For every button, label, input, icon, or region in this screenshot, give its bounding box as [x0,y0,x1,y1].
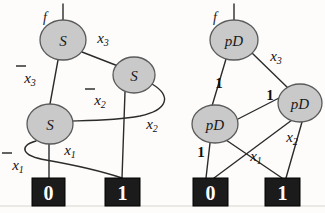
left-edge-label-x1-sub: 1 [71,149,76,160]
left-edge-label-x3: x3 [96,30,109,48]
right-node-pd-top[interactable]: pD [210,20,258,60]
right-node-pd-top-label: pD [224,33,244,49]
right-edge-label-x3-sub: 3 [276,55,282,66]
right-node-pd-right-label: pD [290,96,310,112]
right-terminal-zero[interactable]: 0 [193,178,228,206]
left-edge-label-not-x3: x3 [16,66,36,88]
right-root-marker: f [213,10,219,25]
left-edge-right-to-one [122,92,125,178]
left-edge-label-x1: x1 [63,142,76,160]
left-edge-label-not-x3-sub: 3 [30,77,36,88]
right-terminal-one-label: 1 [278,182,288,204]
diagram-svg: S S S 0 1 f [0,0,325,213]
left-edge-label-x3-sub: 3 [103,37,109,48]
right-edge-label-one-c: 1 [197,144,205,160]
right-edge-label-one-b: 1 [266,87,274,103]
left-terminal-zero[interactable]: 0 [32,178,65,206]
left-terminal-one[interactable]: 1 [105,178,140,206]
svg-text:x1: x1 [63,142,76,160]
left-edge-label-not-x2: x2 [85,89,106,110]
right-edge-label-x1-sub: 1 [257,155,262,166]
right-edge-left-to-zero [206,143,210,178]
left-edge-top-to-right [82,52,118,66]
left-node-s-top-label: S [59,33,67,49]
left-edge-label-x2: x2 [145,116,158,134]
svg-text:x3: x3 [269,48,282,66]
right-terminal-zero-label: 0 [206,182,216,204]
left-edge-left-curve [25,141,122,178]
right-edge-label-one-a: 1 [215,75,223,91]
right-edge-label-x1: x1 [249,148,262,166]
svg-text:x2: x2 [285,129,298,147]
left-node-s-right[interactable]: S [113,57,155,93]
svg-text:x2: x2 [93,92,106,110]
left-node-s-left-label: S [46,117,54,133]
left-edge-top-to-left [50,60,58,104]
left-edge-label-not-x1-sub: 1 [19,164,24,175]
left-root-marker: f [43,10,49,25]
right-node-pd-right[interactable]: pD [278,84,322,122]
left-edge-label-not-x1: x1 [2,153,24,175]
svg-text:x3: x3 [23,70,36,88]
right-terminal-one[interactable]: 1 [265,178,300,206]
left-node-s-right-label: S [130,68,138,84]
left-edge-label-not-x2-sub: 2 [101,99,106,110]
right-node-pd-left[interactable]: pD [192,105,238,143]
left-terminal-one-label: 1 [118,182,128,204]
right-node-pd-left-label: pD [205,117,225,133]
left-node-s-top[interactable]: S [40,20,86,60]
svg-text:x1: x1 [249,148,262,166]
right-edge-label-x3: x3 [269,48,282,66]
left-node-s-left[interactable]: S [27,104,73,144]
svg-text:x1: x1 [11,157,24,175]
right-edge-label-x2-sub: 2 [293,136,298,147]
right-graph: pD pD pD 0 1 f [192,4,322,206]
left-graph: S S S 0 1 f [2,4,165,206]
diagram-canvas: S S S 0 1 f [0,0,325,213]
left-terminal-zero-label: 0 [44,182,54,204]
svg-text:x3: x3 [96,30,109,48]
right-edge-label-x2: x2 [285,129,298,147]
left-edge-label-x2-sub: 2 [153,123,158,134]
svg-text:x2: x2 [145,116,158,134]
